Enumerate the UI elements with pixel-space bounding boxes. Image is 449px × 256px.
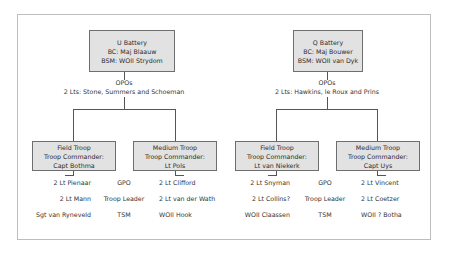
troop-commander-name: Lt van Niekerk bbox=[254, 161, 299, 170]
bracket-line bbox=[377, 175, 386, 176]
troop-commander-label: Troop Commander: bbox=[247, 152, 307, 161]
q-field-troop-box: Field Troop Troop Commander: Lt van Niek… bbox=[235, 141, 319, 171]
troop-commander-name: Lt Pols bbox=[165, 161, 185, 170]
q-row1-role: GPO bbox=[318, 178, 332, 187]
q-row1-left: 2 Lt Snyman bbox=[250, 178, 290, 187]
connector-line bbox=[73, 109, 176, 110]
connector-line bbox=[377, 109, 378, 141]
u-battery-bc: BC: Maj Blaauw bbox=[108, 47, 157, 56]
troop-name: Field Troop bbox=[260, 143, 294, 152]
q-row3-left: WOII Claassen bbox=[245, 210, 290, 219]
u-battery-bsm: BSM: WOII Strydom bbox=[101, 56, 162, 65]
connector-line bbox=[175, 109, 176, 141]
q-battery-box: Q Battery BC: Maj Bouwer BSM: WOII van D… bbox=[293, 30, 363, 72]
u-row3-right: WOII Hook bbox=[159, 210, 192, 219]
u-opos-label: OPOs bbox=[116, 78, 133, 87]
troop-name: Medium Troop bbox=[153, 143, 197, 152]
q-row2-role: Troop Leader bbox=[305, 194, 346, 203]
u-battery-box: U Battery BC: Maj Blaauw BSM: WOII Stryd… bbox=[89, 30, 175, 72]
connector-line bbox=[327, 97, 328, 109]
q-row1-right: 2 Lt Vincent bbox=[361, 178, 399, 187]
q-row3-right: WOII ? Botha bbox=[361, 210, 402, 219]
u-battery-title: U Battery bbox=[117, 38, 147, 47]
q-medium-troop-box: Medium Troop Troop Commander: Capt Uys bbox=[336, 141, 420, 171]
bracket-line bbox=[175, 175, 184, 176]
u-row1-left: 2 Lt Pienaar bbox=[53, 178, 91, 187]
troop-commander-name: Capt Bothma bbox=[53, 161, 94, 170]
u-row1-right: 2 Lt Clifford bbox=[159, 178, 196, 187]
u-row3-left: Sgt van Ryneveld bbox=[36, 210, 91, 219]
connector-line bbox=[276, 109, 378, 110]
diagram-frame bbox=[17, 14, 431, 240]
q-battery-bsm: BSM: WOII van Dyk bbox=[298, 56, 358, 65]
connector-line bbox=[124, 97, 125, 109]
q-row2-left: 2 Lt Collins? bbox=[252, 194, 290, 203]
q-row2-right: 2 Lt Coetzer bbox=[361, 194, 399, 203]
troop-commander-label: Troop Commander: bbox=[145, 152, 205, 161]
q-opos-detail: 2 Lts: Hawkins, le Roux and Prins bbox=[275, 87, 379, 96]
troop-name: Field Troop bbox=[57, 143, 91, 152]
u-field-troop-box: Field Troop Troop Commander: Capt Bothma bbox=[32, 141, 116, 171]
troop-commander-name: Capt Uys bbox=[364, 161, 392, 170]
u-row3-role: TSM bbox=[117, 210, 130, 219]
connector-line bbox=[276, 109, 277, 141]
q-row3-role: TSM bbox=[318, 210, 331, 219]
connector-line bbox=[73, 109, 74, 141]
u-row1-role: GPO bbox=[117, 178, 131, 187]
u-medium-troop-box: Medium Troop Troop Commander: Lt Pols bbox=[133, 141, 217, 171]
q-opos-label: OPOs bbox=[319, 78, 336, 87]
bracket-line bbox=[65, 175, 74, 176]
troop-name: Medium Troop bbox=[356, 143, 400, 152]
troop-commander-label: Troop Commander: bbox=[44, 152, 104, 161]
u-opos-detail: 2 Lts: Stone, Summers and Schoeman bbox=[64, 87, 185, 96]
u-row2-right: 2 Lt van der Wath bbox=[159, 194, 215, 203]
q-battery-bc: BC: Maj Bouwer bbox=[303, 47, 353, 56]
bracket-line bbox=[268, 175, 277, 176]
q-battery-title: Q Battery bbox=[313, 38, 343, 47]
u-row2-role: Troop Leader bbox=[104, 194, 145, 203]
u-row2-left: 2 Lt Mann bbox=[60, 194, 91, 203]
troop-commander-label: Troop Commander: bbox=[348, 152, 408, 161]
